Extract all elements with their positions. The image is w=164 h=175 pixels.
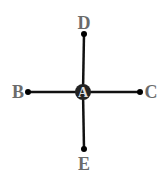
- node-c-label: C: [145, 82, 158, 102]
- node-b-dot: [25, 89, 31, 95]
- edge-a-d: [83, 34, 84, 92]
- edge-a-e: [83, 92, 84, 149]
- node-d-label: D: [78, 13, 91, 33]
- star-diagram: A D B C E: [0, 0, 164, 175]
- node-b-label: B: [12, 82, 24, 102]
- node-c-dot: [137, 89, 143, 95]
- node-a-label: A: [78, 85, 89, 100]
- node-e-label: E: [78, 154, 90, 174]
- node-e-dot: [81, 146, 87, 152]
